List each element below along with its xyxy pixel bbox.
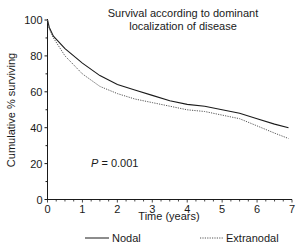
x-tick-label: 7 <box>289 203 295 215</box>
extranodal-curve <box>48 20 289 139</box>
legend-nodal-label: Nodal <box>112 232 141 244</box>
legend: Nodal Extranodal <box>85 232 279 244</box>
axes <box>47 19 292 200</box>
y-tick-label: 60 <box>30 86 42 98</box>
x-tick-label: 2 <box>114 203 120 215</box>
y-tick-label: 40 <box>30 122 42 134</box>
x-tick-label: 5 <box>219 203 225 215</box>
x-tick-label: 1 <box>79 203 85 215</box>
y-tick-label: 0 <box>36 194 42 206</box>
survival-chart: Survival according to dominant localizat… <box>0 0 301 248</box>
p-value-annotation: P = 0.001 <box>91 157 138 169</box>
nodal-curve <box>48 20 289 128</box>
y-tick-label: 80 <box>30 50 42 62</box>
x-axis-label: Time (years) <box>138 210 199 222</box>
y-tick-label: 100 <box>24 14 42 26</box>
x-tick-label: 0 <box>44 203 50 215</box>
y-tick-label: 20 <box>30 158 42 170</box>
p-value: = 0.001 <box>98 157 138 169</box>
chart-title-line2: localization of disease <box>129 20 237 32</box>
y-axis-label: Cumulative % surviving <box>5 53 17 167</box>
chart-title-line1: Survival according to dominant <box>108 7 258 19</box>
legend-extranodal-label: Extranodal <box>226 232 279 244</box>
x-tick-label: 6 <box>254 203 260 215</box>
y-ticks: 020406080100 <box>24 14 47 206</box>
